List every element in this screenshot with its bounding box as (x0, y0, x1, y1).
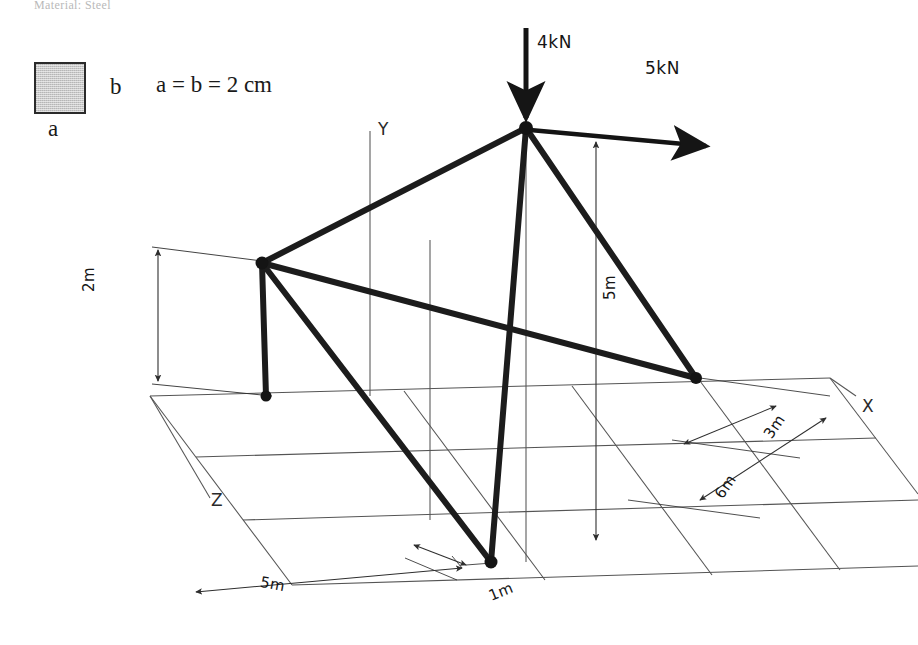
top-left-joint (256, 257, 269, 270)
axis-label-y: Y (378, 119, 388, 139)
axis-label-z: Z (211, 490, 223, 510)
dimension-5m-horizontal (196, 556, 462, 592)
axis-label-x: X (862, 396, 874, 416)
dimension-6m (628, 418, 826, 518)
member-apex-topleft (262, 128, 526, 263)
truss-members (262, 128, 696, 562)
truss-figure (0, 0, 918, 645)
horizontal-load-label: 5kN (645, 58, 680, 78)
ground-grid (150, 378, 918, 585)
right-support-joint (690, 372, 702, 384)
dimension-2m-label: 2m (80, 267, 98, 292)
member-topleft-baseleft (262, 263, 266, 396)
dimension-3m (672, 378, 830, 458)
left-support-joint (261, 391, 272, 402)
front-support-joint (485, 556, 498, 569)
dimension-5m-vertical-label: 5m (601, 275, 619, 300)
vertical-load-label: 4kN (537, 32, 572, 52)
diagram-canvas: Material: Steel b a a = b = 2 cm (0, 0, 918, 645)
dimension-2m (152, 247, 272, 396)
member-apex-front (491, 128, 526, 562)
member-topleft-front (262, 263, 491, 562)
horizontal-load-arrow (530, 130, 706, 146)
